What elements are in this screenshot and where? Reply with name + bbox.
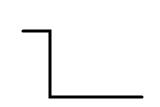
step-line: [23, 31, 142, 97]
diagram-canvas: [0, 0, 160, 107]
